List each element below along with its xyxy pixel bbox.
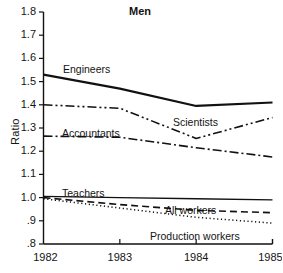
y-tick-label: 1.8 xyxy=(10,6,36,17)
series-label-all-workers: All workers xyxy=(165,205,216,216)
chart-title: Men xyxy=(110,6,170,17)
series-label-scientists: Scientists xyxy=(173,117,218,128)
series-label-teachers: Teachers xyxy=(62,188,105,199)
x-tick-label: 1984 xyxy=(176,252,216,263)
series-label-production-workers: Production workers xyxy=(150,231,240,242)
y-tick-label: 1.7 xyxy=(10,29,36,40)
y-tick-label: .8 xyxy=(10,238,36,249)
y-tick-label: 1.5 xyxy=(10,76,36,87)
x-tick-label: 1985 xyxy=(251,252,283,263)
series-line-accountants xyxy=(44,136,273,157)
series-label-accountants: Accountants xyxy=(62,128,120,139)
y-tick-label: 1.0 xyxy=(10,192,36,203)
x-tick-label: 1982 xyxy=(26,252,66,263)
x-tick-label: 1983 xyxy=(100,252,140,263)
y-tick-label: 1.2 xyxy=(10,145,36,156)
y-tick-label: 1.3 xyxy=(10,122,36,133)
series-line-production-workers xyxy=(44,199,273,223)
y-tick-label: 1.6 xyxy=(10,52,36,63)
y-tick-label: .9 xyxy=(10,215,36,226)
chart-series-lines xyxy=(44,75,273,223)
series-line-engineers xyxy=(44,75,273,106)
y-tick-label: 1.4 xyxy=(10,99,36,110)
chart-container: Men Ratio 1.81.71.61.51.41.31.21.11.0.9.… xyxy=(0,0,282,273)
series-label-engineers: Engineers xyxy=(63,64,110,75)
y-tick-label: 1.1 xyxy=(10,168,36,179)
